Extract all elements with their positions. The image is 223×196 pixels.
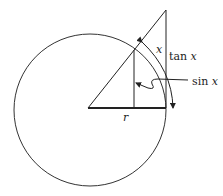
tan-fn: tan xyxy=(169,50,187,63)
tan-label: tan x xyxy=(169,50,198,63)
sin-var: x xyxy=(212,75,219,88)
circle xyxy=(14,34,166,186)
radius-label: r xyxy=(123,111,129,124)
sin-label: sin x xyxy=(192,75,219,88)
unit-circle-diagram: r x tan x sin x xyxy=(0,0,223,196)
tan-var: x xyxy=(191,50,198,63)
sin-fn: sin xyxy=(192,75,208,88)
arc-label: x xyxy=(156,43,163,56)
hypotenuse-line xyxy=(88,10,166,108)
